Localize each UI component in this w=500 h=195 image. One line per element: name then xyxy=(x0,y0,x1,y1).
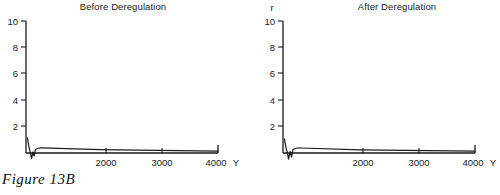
x-tick-label-3000: 3000 xyxy=(408,157,429,168)
x-axis-name: Y xyxy=(490,157,497,168)
x-tick-label-4000: 4000 xyxy=(205,157,226,168)
data-line-after-deregulation xyxy=(285,139,476,159)
y-tick-label-4: 4 xyxy=(13,95,18,106)
y-tick-label-2: 2 xyxy=(13,121,18,132)
x-tick-label-4000: 4000 xyxy=(462,157,483,168)
x-tick-label-3000: 3000 xyxy=(151,157,172,168)
figure-caption: Figure 13B xyxy=(2,171,75,188)
x-tick-label-2000: 2000 xyxy=(352,157,373,168)
chart-panel-before-deregulation: Before Deregulation 10 8 6 4 2 2000 xyxy=(0,0,250,170)
chart-panel-after-deregulation: After Deregulation r 10 8 6 4 2 xyxy=(250,0,500,170)
y-tick-label-6: 6 xyxy=(270,68,275,79)
y-tick-label-8: 8 xyxy=(13,42,18,53)
y-tick-label-2: 2 xyxy=(270,121,275,132)
x-tick-label-2000: 2000 xyxy=(95,157,116,168)
y-axis-name: r xyxy=(270,2,273,13)
plot-area-after-deregulation: r 10 8 6 4 2 2000 3000 4000 xyxy=(250,0,500,170)
figure-13b: Before Deregulation 10 8 6 4 2 2000 xyxy=(0,0,500,195)
y-tick-label-4: 4 xyxy=(270,95,275,106)
y-tick-label-6: 6 xyxy=(13,68,18,79)
data-line-before-deregulation xyxy=(28,138,219,159)
y-tick-label-10: 10 xyxy=(264,16,275,27)
y-tick-label-8: 8 xyxy=(270,42,275,53)
plot-area-before-deregulation: 10 8 6 4 2 2000 3000 4000 Y xyxy=(0,0,250,170)
y-tick-label-10: 10 xyxy=(7,16,18,27)
x-axis-name: Y xyxy=(233,157,240,168)
